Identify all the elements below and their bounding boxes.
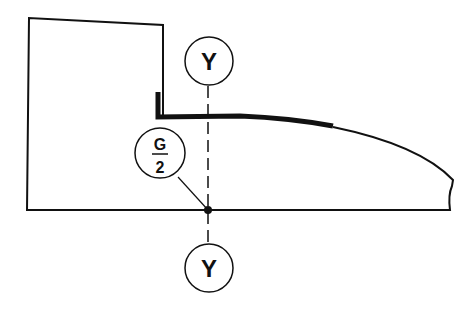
technical-diagram: Y Y G 2 (0, 0, 473, 315)
reference-point (204, 206, 212, 214)
bottom-y-label: Y (185, 244, 233, 292)
svg-text:Y: Y (201, 255, 217, 282)
top-y-label: Y (185, 37, 233, 85)
leader-line (178, 177, 208, 210)
svg-text:2: 2 (156, 159, 165, 176)
center-of-gravity-label: G 2 (135, 128, 185, 178)
svg-text:Y: Y (201, 48, 217, 75)
thick-flange (158, 92, 333, 126)
svg-text:G: G (154, 136, 166, 153)
